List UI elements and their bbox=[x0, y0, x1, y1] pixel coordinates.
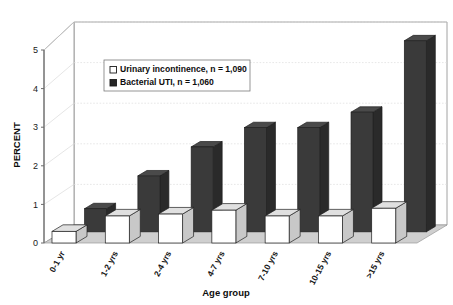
x-axis-category-label: 2-4 yrs bbox=[152, 249, 174, 278]
chart-container: 0 1 2 3 4 5 PERCENT bbox=[0, 0, 453, 305]
y-tick-label: 3 bbox=[33, 122, 38, 132]
bar-urinary-incontinence bbox=[265, 216, 289, 243]
y-tick-2: 2 bbox=[33, 161, 44, 171]
bar-bacterial-uti bbox=[351, 112, 373, 232]
x-axis-category-label: 10-15 yrs bbox=[307, 249, 333, 286]
x-axis-title: Age group bbox=[202, 287, 250, 298]
y-tick-1: 1 bbox=[33, 200, 44, 210]
bar-bacterial-uti bbox=[298, 128, 320, 232]
bar-bacterial-uti bbox=[138, 176, 160, 232]
legend-label-urinary-incontinence: Urinary incontinence, n = 1,090 bbox=[120, 64, 247, 74]
x-axis-category-label: 1-2 yrs bbox=[98, 249, 120, 278]
bar-urinary-incontinence bbox=[159, 214, 183, 243]
x-axis-category-label: 4-7 yrs bbox=[205, 249, 227, 278]
y-tick-5: 5 bbox=[33, 45, 44, 55]
bar-urinary-incontinence bbox=[212, 210, 236, 243]
y-tick-3: 3 bbox=[33, 122, 44, 132]
y-axis-title: PERCENT bbox=[11, 122, 22, 168]
plot-left-wall bbox=[44, 22, 74, 243]
x-axis-category-label: 7-10 yrs bbox=[256, 249, 280, 282]
legend-swatch-urinary-incontinence bbox=[110, 67, 117, 74]
bar-urinary-incontinence bbox=[105, 216, 129, 243]
y-tick-label: 1 bbox=[33, 200, 38, 210]
bar-chart-3d: 0 1 2 3 4 5 PERCENT bbox=[0, 0, 453, 305]
bar-bacterial-uti bbox=[191, 147, 213, 232]
bar-bacterial-uti bbox=[244, 128, 266, 232]
y-tick-0: 0 bbox=[33, 238, 44, 248]
legend-swatch-bacterial-uti bbox=[110, 80, 117, 87]
bar-bacterial-uti bbox=[404, 41, 426, 232]
y-tick-4: 4 bbox=[33, 84, 44, 94]
y-tick-label: 4 bbox=[33, 84, 38, 94]
x-axis-category-labels: 0-1 yr1-2 yrs2-4 yrs4-7 yrs7-10 yrs10-15… bbox=[47, 249, 386, 287]
y-tick-label: 0 bbox=[33, 238, 38, 248]
y-tick-label: 5 bbox=[33, 45, 38, 55]
bar-urinary-incontinence bbox=[52, 231, 76, 243]
x-axis-category-label: >15 yrs bbox=[364, 249, 387, 280]
y-tick-label: 2 bbox=[33, 161, 38, 171]
legend-label-bacterial-uti: Bacterial UTI, n = 1,060 bbox=[120, 77, 214, 87]
x-axis-category-label: 0-1 yr bbox=[47, 249, 67, 274]
bar-bacterial-uti bbox=[85, 209, 107, 232]
y-axis-ticks: 0 1 2 3 4 5 bbox=[33, 45, 44, 248]
bar-urinary-incontinence bbox=[372, 208, 396, 243]
chart-legend: Urinary incontinence, n = 1,090 Bacteria… bbox=[104, 60, 250, 91]
bar-urinary-incontinence bbox=[318, 216, 342, 243]
